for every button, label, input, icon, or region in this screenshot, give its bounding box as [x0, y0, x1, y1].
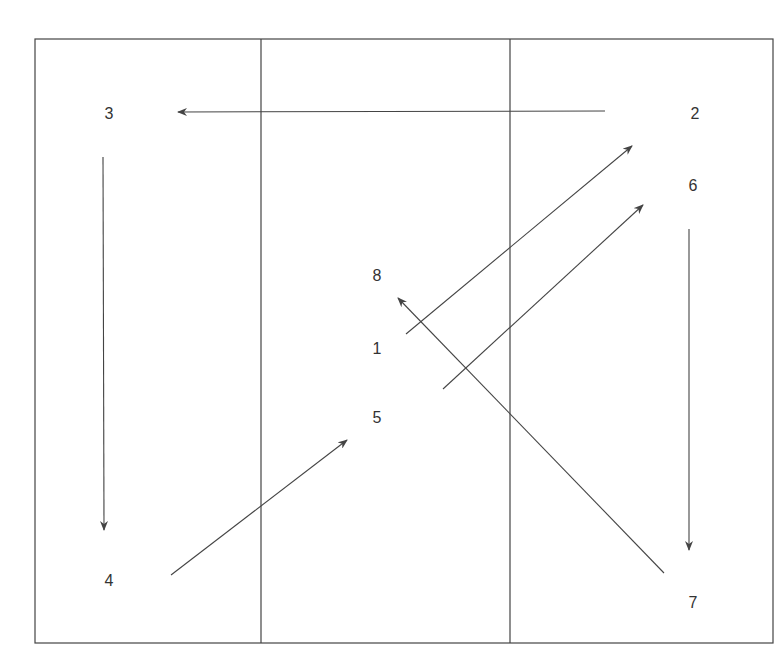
position-label-2: 2: [691, 106, 700, 122]
position-label-1: 1: [373, 341, 382, 357]
position-label-7: 7: [689, 595, 698, 611]
arrow-1-to-2: [406, 146, 632, 334]
position-label-5: 5: [373, 410, 382, 426]
position-label-8: 8: [373, 268, 382, 284]
diagram-canvas: [0, 0, 783, 661]
position-label-6: 6: [689, 178, 698, 194]
position-label-4: 4: [105, 573, 114, 589]
column-dividers: [261, 39, 510, 643]
arrow-2-to-3: [178, 111, 605, 112]
movement-diagram: 12345678: [0, 0, 783, 661]
arrow-4-to-5: [171, 440, 347, 575]
arrow-3-to-4: [103, 157, 104, 530]
arrow-7-to-8: [398, 298, 664, 573]
arrow-5-to-6: [443, 205, 643, 389]
movement-arrows: [103, 111, 689, 575]
position-label-3: 3: [105, 106, 114, 122]
diagram-frame: [35, 39, 773, 643]
